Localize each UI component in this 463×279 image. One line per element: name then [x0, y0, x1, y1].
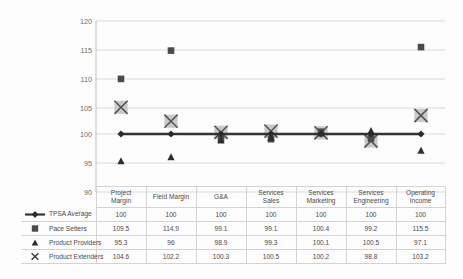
legend-item-product-extenders: Product Extenders [21, 250, 96, 264]
column-header-field-margin: Field Margin [146, 187, 196, 208]
x-cross-icon [24, 252, 46, 261]
cell-value: 100 [396, 208, 445, 222]
cell-value: 100 [346, 208, 396, 222]
y-tick-100: 100 [80, 130, 92, 139]
legend-label: Product Providers [49, 239, 101, 247]
legend-item-product-providers: Product Providers [21, 236, 96, 250]
cell-value: 99.3 [246, 236, 296, 250]
cell-value: 100 [296, 208, 346, 222]
legend-label: Pace Setters [49, 225, 87, 233]
y-tick-95: 95 [84, 159, 92, 168]
column-header-services-sales: Services Sales [246, 187, 296, 208]
column-header-services-marketing: Services Marketing [296, 187, 346, 208]
cell-value: 115.5 [396, 222, 445, 236]
cell-value: 99.2 [346, 222, 396, 236]
cell-value: 102.2 [146, 250, 196, 264]
line-diamond-icon [24, 210, 46, 219]
cell-value: 100.3 [196, 250, 246, 264]
cell-value: 100.1 [296, 236, 346, 250]
cell-value: 100.2 [296, 250, 346, 264]
column-header-services-engineering: Services Engineering [346, 187, 396, 208]
plot-area: 120 115 110 105 100 95 90 [0, 0, 463, 196]
legend-label: TPSA Average [49, 210, 92, 218]
header-line-2: Marketing [297, 197, 346, 205]
series-tpsa-average [117, 130, 424, 137]
y-tick-115: 115 [81, 46, 92, 55]
table-row: Product Extenders 104.6 102.2 100.3 100.… [21, 250, 445, 264]
cell-value: 95.3 [96, 236, 146, 250]
header-line-2: Sales [247, 197, 296, 205]
header-line-1: Services [347, 189, 396, 197]
cell-value: 100.4 [296, 222, 346, 236]
column-header-project-margin: Project Margin [96, 187, 146, 208]
cell-value: 104.6 [96, 250, 146, 264]
header-line-1: G&A [197, 193, 246, 201]
header-line-1: Services [297, 189, 346, 197]
cell-value: 100 [96, 208, 146, 222]
column-header-g-and-a: G&A [196, 187, 246, 208]
data-table: Project Margin Field Margin G&A Services… [21, 186, 446, 264]
column-header-operating-income: Operating Income [396, 187, 445, 208]
cell-value: 100.5 [346, 236, 396, 250]
legend-item-tpsa-average: TPSA Average [21, 208, 96, 222]
header-line-1: Project [97, 189, 146, 197]
header-line-1: Operating [397, 189, 445, 197]
gridlines [96, 21, 445, 192]
table-row: TPSA Average 100 100 100 100 100 100 100 [21, 208, 445, 222]
cell-value: 100.5 [246, 250, 296, 264]
cell-value: 99.1 [246, 222, 296, 236]
header-line-2: Engineering [347, 197, 396, 205]
legend-label: Product Extenders [49, 253, 103, 261]
header-line-1: Field Margin [147, 193, 196, 201]
legend-header-cell [21, 187, 96, 208]
cell-value: 97.1 [396, 236, 445, 250]
chart-figure: 120 115 110 105 100 95 90 [0, 0, 463, 279]
cell-value: 100 [196, 208, 246, 222]
cell-value: 99.1 [196, 222, 246, 236]
table-header-row: Project Margin Field Margin G&A Services… [21, 187, 445, 208]
header-line-2: Income [397, 197, 445, 205]
triangle-icon [24, 238, 46, 247]
cell-value: 98.8 [346, 250, 396, 264]
cell-value: 100 [146, 208, 196, 222]
cell-value: 103.2 [396, 250, 445, 264]
plot-svg: 120 115 110 105 100 95 90 [0, 0, 463, 196]
y-tick-110: 110 [81, 75, 92, 84]
cell-value: 109.5 [96, 222, 146, 236]
header-line-2: Margin [97, 197, 146, 205]
y-axis-tick-labels: 120 115 110 105 100 95 90 [80, 17, 92, 196]
cell-value: 100 [246, 208, 296, 222]
header-line-1: Services [247, 189, 296, 197]
y-tick-120: 120 [80, 17, 92, 26]
cell-value: 114.9 [146, 222, 196, 236]
legend-item-pace-setters: Pace Setters [21, 222, 96, 236]
table-row: Pace Setters 109.5 114.9 99.1 99.1 100.4… [21, 222, 445, 236]
cell-value: 96 [146, 236, 196, 250]
square-icon [24, 224, 46, 233]
cell-value: 98.9 [196, 236, 246, 250]
y-tick-105: 105 [80, 104, 92, 113]
table-row: Product Providers 95.3 96 98.9 99.3 100.… [21, 236, 445, 250]
